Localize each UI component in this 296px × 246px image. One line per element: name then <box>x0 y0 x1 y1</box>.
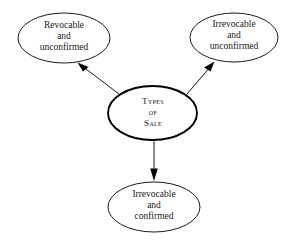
arrowhead-bottom <box>150 169 158 182</box>
edge-line-top-left <box>82 66 119 94</box>
node-ellipse-irrevocable-unconfirmed[interactable] <box>190 13 278 62</box>
node-ellipse-types-of-sale[interactable] <box>108 86 197 140</box>
edge-line-top-right <box>187 66 211 94</box>
types-of-sale-diagram: Revocable and unconfirmed Irrevocable an… <box>0 0 296 246</box>
node-ellipse-revocable-unconfirmed[interactable] <box>18 13 110 63</box>
arrowhead-top-right <box>204 62 215 72</box>
node-ellipse-irrevocable-confirmed[interactable] <box>108 182 200 232</box>
edge-center-to-top-right <box>187 62 215 95</box>
diagram-canvas <box>0 0 296 246</box>
edge-center-to-bottom <box>150 140 158 181</box>
edge-center-to-top-left <box>78 63 120 95</box>
